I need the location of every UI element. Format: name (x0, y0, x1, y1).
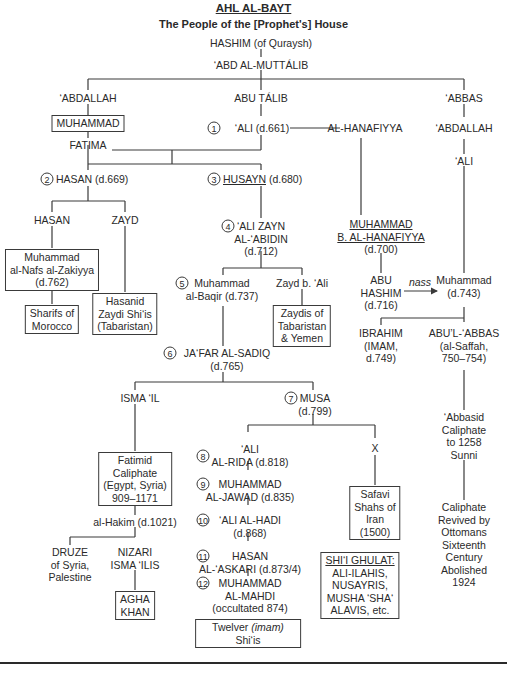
safavi-line-4: (1500) (354, 526, 395, 539)
hasanid-line-1: Hasanid (97, 295, 152, 308)
ibn-hanafiyya-line-2: B. AL-HANAFIYYA (337, 231, 424, 244)
muhammad-743-line-2: (d.743) (436, 287, 491, 300)
ottoman-line-4: Sixteenth (438, 539, 490, 552)
ottoman-line-3: Ottomans (438, 526, 490, 539)
node-abu-hashim: ABU HASHIM (d.716) (361, 274, 402, 312)
nizari-line-2: ISMA ‘ILIS (110, 559, 159, 572)
node-twelver-shiis: Twelver (imam) Shi‘is (195, 619, 301, 648)
node-abbas-abdallah: ‘ABDALLAH (435, 122, 492, 135)
node-al-hakim: al-Hakim (d.1021) (93, 516, 176, 529)
ottoman-line-1: Caliphate (438, 501, 490, 514)
node-baqir: Muhammad al-Baqir (d.737) (186, 277, 258, 302)
jafar-line-1: JA‘FAR AL-SADIQ (184, 347, 270, 360)
husayn-date: (d.680) (266, 173, 302, 185)
node-ibrahim: IBRAHIM (IMAM, d.749) (359, 327, 403, 365)
ibn-hanafiyya-line-1: MUHAMMAD (337, 218, 424, 231)
node-musa: MUSA (d.799) (298, 392, 331, 417)
agha-line-2: KHAN (120, 606, 150, 619)
node-muhammad-prophet: MUHAMMAD (52, 115, 125, 132)
saffah-line-1: ABU’L-‘ABBAS (429, 327, 500, 340)
ghulat-line-5: ALAVIS, etc. (325, 604, 394, 617)
ibn-hanafiyya-line-3: (d.700) (337, 243, 424, 256)
agha-line-1: AGHA (120, 593, 150, 606)
abbasid-line-4: Sunni (442, 449, 486, 462)
node-abul-abbas-saffah: ABU’L-‘ABBAS (al-Saffah, 750–754) (429, 327, 500, 365)
node-muhammad-743: Muhammad (d.743) (436, 274, 491, 299)
muhammad-743-line-1: Muhammad (436, 274, 491, 287)
druze-line-1: DRUZE (48, 546, 91, 559)
nafs-line-3: (d.762) (10, 276, 94, 289)
node-ali: ‘ALI (d.661) (235, 122, 289, 135)
ghulat-line-3: NUSAYRIS, (325, 579, 394, 592)
node-ottoman-caliphate: Caliphate Revived by Ottomans Sixteenth … (438, 501, 490, 589)
fatimid-line-2: Caliphate (103, 467, 167, 480)
node-muhammad-al-mahdi: MUHAMMAD AL-MAHDI (occultated 874) (212, 577, 287, 615)
fatimid-line-3: (Egypt, Syria) (103, 479, 167, 492)
node-muhammad-al-jawad: MUHAMMAD AL-JAWAD (d.835) (206, 478, 295, 503)
node-al-hanafiyya: AL-HANAFIYYA (327, 122, 402, 135)
node-abd-al-muttalib: ‘ABD AL-MUTTÁLIB (214, 59, 309, 72)
node-hasan: HASAN (d.669) (56, 173, 128, 186)
jawad-line-2: AL-JAWAD (d.835) (206, 491, 295, 504)
node-ismail: ISMA ‘IL (120, 392, 159, 405)
sharifs-line-2: Morocco (30, 320, 74, 333)
ottoman-line-6: Abolished (438, 564, 490, 577)
node-agha-khan: AGHA KHAN (115, 591, 155, 620)
node-abbas: ‘ABBAS (445, 92, 482, 105)
ottoman-line-2: Revived by (438, 514, 490, 527)
imam-number-3: 3 (208, 173, 221, 186)
node-nizari-ismailis: NIZARI ISMA ‘ILIS (110, 546, 159, 571)
nass-label: nass (409, 276, 431, 289)
diagram-subtitle: The People of the [Prophet's] House (0, 18, 507, 30)
node-druze: DRUZE of Syria, Palestine (48, 546, 91, 584)
druze-line-2: of Syria, (48, 559, 91, 572)
ottoman-line-7: 1924 (438, 576, 490, 589)
zayn-line-3: (d.712) (234, 245, 288, 258)
jafar-line-2: (d.765) (184, 360, 270, 373)
nafs-line-2: al-Nafs al-Zakiyya (10, 264, 94, 277)
askari-line-2: AL-‘ASKARI (d.873/4) (199, 563, 301, 576)
abbasid-line-1: ‘Abbasid (442, 411, 486, 424)
mahdi-line-2: AL-MAHDI (212, 590, 287, 603)
ghulat-line-1: SHI‘I GHULAT: (325, 554, 394, 567)
fatimid-line-1: Fatimid (103, 454, 167, 467)
hasanid-line-2: Zaydi Shi‘is (97, 308, 152, 321)
jawad-line-1: MUHAMMAD (206, 478, 295, 491)
nizari-line-1: NIZARI (110, 546, 159, 559)
safavi-line-2: Shahs of (354, 501, 395, 514)
abbasid-line-3: to 1258 (442, 436, 486, 449)
twelver-line-2: Shi‘is (212, 634, 284, 647)
abu-hashim-line-2: HASHIM (361, 287, 402, 300)
twelver-line-1: Twelver (imam) (212, 621, 284, 634)
imam-number-10: 10 (197, 514, 210, 527)
abu-hashim-line-3: (d.716) (361, 299, 402, 312)
node-zayd: ZAYD (111, 214, 138, 227)
imam-number-1: 1 (208, 122, 221, 135)
node-x: X (371, 442, 378, 455)
zayn-line-1: ‘ALI ZAYN (234, 220, 288, 233)
ghulat-line-4: MUSHA ‘SHA‘ (325, 592, 394, 605)
saffah-line-2: (al-Saffah, (429, 340, 500, 353)
hadi-line-2: (d.868) (219, 527, 281, 540)
abbasid-line-2: Caliphate (442, 424, 486, 437)
node-husayn: HUSAYN (d.680) (223, 173, 302, 186)
nafs-line-1: Muhammad (10, 251, 94, 264)
twelver-prefix: Twelver (212, 621, 251, 633)
musa-line-1: MUSA (298, 392, 331, 405)
ottoman-line-5: Century (438, 551, 490, 564)
mahdi-line-3: (occultated 874) (212, 602, 287, 615)
imam-number-12: 12 (197, 577, 210, 590)
node-abbas-ali: ‘ALI (455, 155, 473, 168)
imam-number-2: 2 (41, 173, 54, 186)
musa-line-2: (d.799) (298, 405, 331, 418)
node-hasan-al-askari: HASAN AL-‘ASKARI (d.873/4) (199, 550, 301, 575)
zaydis-line-3: & Yemen (278, 332, 326, 345)
node-abu-talib: ABU TÁLIB (234, 92, 288, 105)
node-ibn-hanafiyya: MUHAMMAD B. AL-HANAFIYYA (d.700) (337, 218, 424, 256)
saffah-line-3: 750–754) (429, 352, 500, 365)
node-fatima: FATIMA (69, 139, 106, 152)
rida-line-2: AL-RIDA (d.818) (211, 456, 288, 469)
diagram-title: AHL AL-BAYT (0, 2, 507, 14)
node-fatimid-caliphate: Fatimid Caliphate (Egypt, Syria) 909–117… (98, 452, 172, 506)
hadi-line-1: ‘ALI AL-HADI (219, 514, 281, 527)
